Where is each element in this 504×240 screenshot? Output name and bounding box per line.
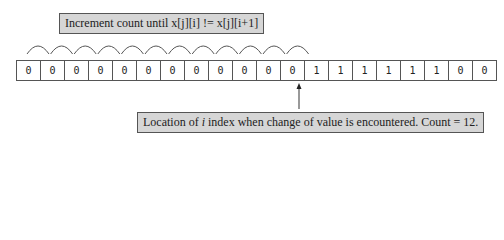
callout-prefix: Location of [143, 115, 202, 129]
callout-suffix: index when change of value is encountere… [205, 115, 478, 129]
location-count-callout: Location of i index when change of value… [137, 112, 484, 133]
